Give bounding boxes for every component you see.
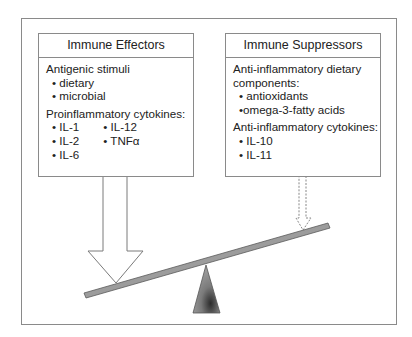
small-dashed-down-arrow-icon: [296, 176, 311, 230]
immune-suppressors-box: Immune Suppressors Anti-inflammatory die…: [225, 33, 381, 177]
list-item: • microbial: [46, 89, 193, 103]
list-item: • IL-6: [46, 148, 79, 162]
list-item: • dietary: [46, 76, 193, 90]
box-title: Immune Effectors: [39, 34, 193, 58]
antigenic-stimuli-group: Antigenic stimuli • dietary • microbial: [46, 62, 193, 103]
group-heading: Antigenic stimuli: [46, 62, 193, 76]
anti-inflammatory-cytokines-group: Anti-inflammatory cytokines: • IL-10 • I…: [233, 120, 380, 161]
list-item: • IL-11: [233, 148, 380, 162]
group-heading: Proinflammatory cytokines:: [46, 107, 193, 121]
list-item: •omega-3-fatty acids: [233, 103, 380, 117]
list-item: • TNFα: [97, 134, 139, 148]
proinflammatory-cytokines-group: Proinflammatory cytokines: • IL-1 • IL-2…: [46, 107, 193, 161]
box-title: Immune Suppressors: [226, 34, 380, 58]
list-item: • IL-1: [46, 120, 79, 134]
list-item: • IL-10: [233, 134, 380, 148]
anti-inflammatory-dietary-group: Anti-inflammatory dietary components: • …: [233, 62, 380, 116]
group-heading-line: Anti-inflammatory dietary: [233, 62, 380, 76]
group-heading-line: components:: [233, 76, 380, 90]
large-down-arrow-icon: [88, 176, 143, 283]
list-item: • IL-2: [46, 134, 79, 148]
list-item: • IL-12: [97, 120, 139, 134]
group-heading: Anti-inflammatory cytokines:: [233, 120, 380, 134]
fulcrum-triangle-icon: [193, 265, 220, 313]
list-item: • antioxidants: [233, 89, 380, 103]
immune-effectors-box: Immune Effectors Antigenic stimuli • die…: [38, 33, 194, 177]
